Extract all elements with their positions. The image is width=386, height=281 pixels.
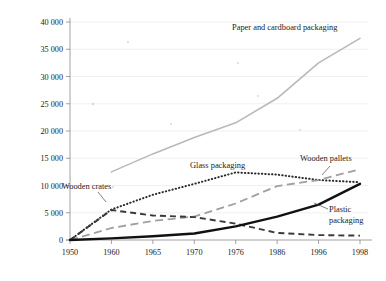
y-tick-label: 35 000 xyxy=(40,45,63,54)
x-tick-label: 1996 xyxy=(310,248,326,257)
series-label: packaging xyxy=(329,216,364,225)
y-tick-labels: 05 00010 00015 00020 00025 00030 00035 0… xyxy=(40,18,63,245)
gridlines xyxy=(70,22,368,213)
line-chart: 05 00010 00015 00020 00025 00030 00035 0… xyxy=(0,0,386,281)
x-axis xyxy=(66,240,372,244)
scan-speck xyxy=(257,95,259,97)
scan-speck xyxy=(299,129,301,131)
scan-speck xyxy=(127,41,129,43)
chart-canvas: 05 00010 00015 00020 00025 00030 00035 0… xyxy=(0,0,386,281)
x-tick-label: 1986 xyxy=(269,248,285,257)
y-tick-label: 30 000 xyxy=(40,73,63,82)
x-tick-label: 1976 xyxy=(228,248,244,257)
y-tick-label: 15 000 xyxy=(40,154,63,163)
y-tick-label: 20 000 xyxy=(40,127,63,136)
y-tick-label: 10 000 xyxy=(40,182,63,191)
series-label: Wooden crates xyxy=(62,182,111,191)
scan-speck xyxy=(92,103,94,105)
leader-line xyxy=(98,192,106,202)
series-label: Plastic xyxy=(329,205,352,214)
y-tick-label: 25 000 xyxy=(40,100,63,109)
x-tick-label: 1970 xyxy=(186,248,202,257)
data-series xyxy=(70,38,360,240)
scan-speck xyxy=(170,123,172,125)
x-tick-label: 1960 xyxy=(103,248,119,257)
x-tick-label: 1998 xyxy=(352,248,368,257)
series-line-4 xyxy=(70,210,360,240)
y-axis xyxy=(66,18,70,240)
scan-speck xyxy=(237,62,239,64)
y-tick-label: 40 000 xyxy=(40,18,63,27)
y-tick-label: 0 xyxy=(59,236,63,245)
series-line-5 xyxy=(70,184,360,240)
x-tick-label: 1950 xyxy=(62,248,78,257)
y-tick-label: 5 000 xyxy=(45,209,63,218)
leader-lines xyxy=(98,166,330,209)
series-line-1 xyxy=(111,38,360,172)
x-tick-labels: 19501960196519701976198619961998 xyxy=(62,248,368,257)
series-label: Paper and cardboard packaging xyxy=(232,23,338,32)
series-label: Glass packaging xyxy=(190,161,246,170)
series-label: Wooden pallets xyxy=(300,154,352,163)
scan-speck xyxy=(112,186,114,188)
series-labels: Paper and cardboard packagingGlass packa… xyxy=(62,23,364,225)
leader-line xyxy=(322,166,330,175)
x-tick-label: 1965 xyxy=(145,248,161,257)
